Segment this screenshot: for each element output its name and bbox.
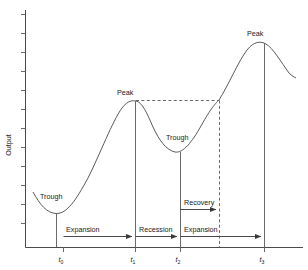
axes-group [26,10,304,248]
y-axis-ticks [21,15,26,224]
label-expansion-1: Expansion [66,225,100,234]
label-recession: Recession [139,225,173,234]
label-peak-1: Peak [117,88,134,97]
diagram-canvas: Output Trough Peak Trough Peak Recovery … [0,0,308,270]
curve-labels-group: Trough Peak Trough Peak [40,29,264,201]
phase-labels-group: Recovery Expansion Recession Expansion [66,198,218,234]
x-tick-label-t0: t0 [59,255,64,265]
label-peak-2: Peak [247,29,264,38]
x-axis-tick-labels: t0 t1 t2 t3 [59,255,265,265]
label-trough-1: Trough [40,192,63,201]
label-expansion-2: Expansion [184,225,218,234]
output-cycle-curve [33,42,296,213]
label-recovery: Recovery [184,198,215,207]
business-cycle-diagram: Output Trough Peak Trough Peak Recovery … [0,0,308,270]
t2-subscript: 2 [178,259,181,265]
x-tick-label-t3: t3 [260,255,265,265]
t3-subscript: 3 [262,259,265,265]
y-axis-label: Output [4,134,13,156]
x-tick-label-t1: t1 [131,255,136,265]
t0-subscript: 0 [61,259,64,265]
label-trough-2: Trough [166,133,189,142]
t1-subscript: 1 [133,259,136,265]
x-axis-ticks [64,248,265,253]
x-tick-label-t2: t2 [176,255,181,265]
